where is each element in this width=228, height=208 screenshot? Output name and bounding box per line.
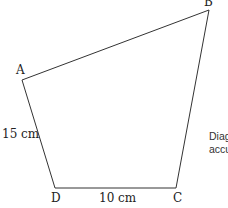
side-label-ad: 15 cm — [2, 128, 39, 140]
quadrilateral-figure — [0, 0, 228, 208]
diagram-note: Diag accu — [209, 130, 228, 156]
vertex-label-d: D — [51, 192, 61, 204]
diagram-note-line-2: accu — [209, 143, 228, 156]
diagram-canvas: A B C D 15 cm 10 cm Diag accu — [0, 0, 228, 208]
vertex-label-c: C — [173, 192, 182, 204]
vertex-label-a: A — [16, 64, 25, 76]
diagram-note-line-1: Diag — [209, 130, 228, 143]
quadrilateral-abcd — [22, 10, 209, 188]
side-label-dc: 10 cm — [99, 192, 136, 204]
vertex-label-b: B — [204, 0, 213, 8]
